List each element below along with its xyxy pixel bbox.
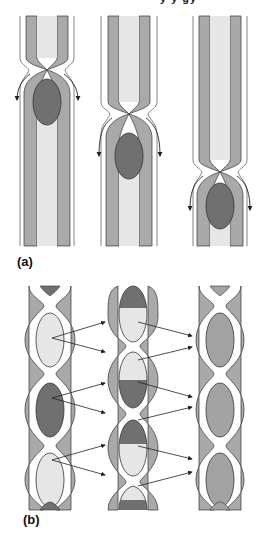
segmentation-column-2 [108,286,158,510]
peristalsis-stage-1 [17,16,78,246]
peristalsis-stage-2 [99,16,160,246]
segmentation-column-3 [196,286,244,510]
segmentation-column-1 [25,286,75,510]
peristalsis-stage-3 [190,16,250,246]
panel-label-b: (b) [23,512,40,527]
diagram-canvas [0,0,260,549]
panel-label-a: (a) [17,254,33,269]
